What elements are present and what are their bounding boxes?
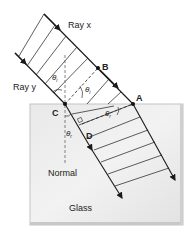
glass-block (30, 104, 183, 225)
label-ray-y: Ray y (13, 82, 37, 92)
label-ray-x: Ray x (68, 20, 92, 30)
refraction-diagram: Ray x Ray y B A C D θi θi θr θr Normal G… (0, 0, 190, 233)
label-point-b: B (102, 62, 109, 72)
label-point-d: D (86, 131, 93, 141)
wavefront-cb (65, 68, 98, 104)
label-theta-i-1: θi (52, 73, 58, 83)
label-point-a: A (136, 93, 143, 103)
label-point-c: C (52, 108, 59, 118)
label-normal: Normal (48, 168, 77, 178)
point-b-dot (96, 66, 100, 70)
point-c-dot (63, 102, 67, 106)
point-a-dot (131, 102, 135, 106)
label-theta-i-2: θi (85, 85, 91, 95)
label-glass: Glass (69, 203, 93, 213)
